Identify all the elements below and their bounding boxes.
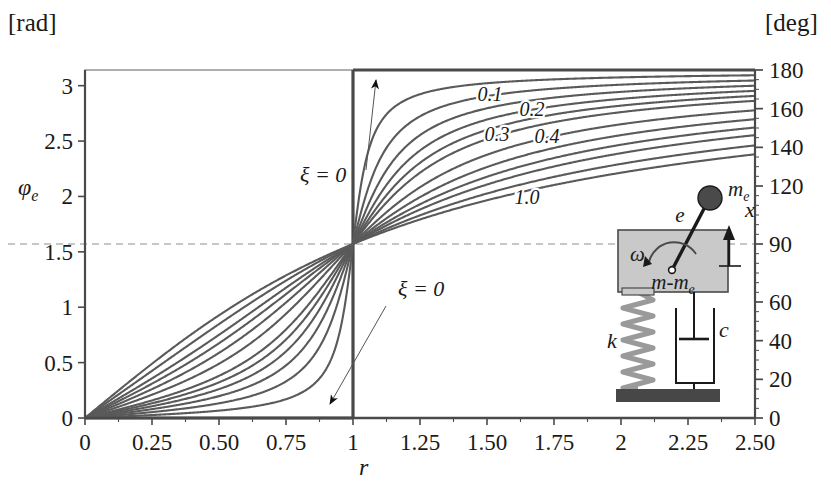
y-tick-right-label: 20 [769, 367, 792, 392]
y-tick-label: 3 [62, 74, 74, 99]
y-tick-right-label: 60 [769, 290, 792, 315]
y-tick-label: 2 [62, 184, 74, 209]
annotation-leader [330, 306, 386, 404]
label-sub: e [689, 282, 695, 297]
x-tick-label: 1.75 [534, 430, 574, 455]
curve-label-0.2: 0.2 [520, 98, 545, 120]
curve-label-text: 1.0 [515, 186, 540, 208]
annotation-leader [366, 80, 376, 170]
y-tick-label: 2.5 [44, 129, 73, 154]
x-tick-label: 2 [615, 430, 627, 455]
label-eccentricity: e [675, 203, 684, 227]
x-axis-name: r [359, 454, 369, 480]
spring [623, 292, 653, 388]
y-tick-right-label: 160 [769, 97, 804, 122]
y-tick-right-label: 0 [769, 406, 781, 431]
curve-label-0.4: 0.4 [535, 125, 560, 147]
y-tick-right-label: 140 [769, 135, 804, 160]
x-tick-label: 1.25 [400, 430, 440, 455]
curve-label-1.0: 1.0 [515, 186, 540, 208]
label-body-mass: m-me [651, 270, 695, 297]
x-tick-label: 1 [347, 430, 359, 455]
curve-label-text: 0.2 [520, 98, 545, 120]
x-tick-label: 0.75 [266, 430, 306, 455]
curve-label-0.1: 0.1 [478, 83, 503, 105]
label-angular-velocity: ω [630, 242, 645, 266]
curve-label-text: 0.1 [478, 83, 503, 105]
y-tick-right-label: 180 [769, 58, 804, 83]
y-tick-label: 1.5 [44, 240, 73, 265]
chart-svg: 0.10.20.30.41.000.250.500.7511.251.501.7… [0, 0, 831, 500]
y-axis-name-sub: e [31, 187, 38, 204]
y-axis-unit-right: [deg] [765, 9, 818, 36]
eccentric-mass [698, 186, 722, 210]
y-tick-label: 0.5 [44, 351, 73, 376]
y-tick-right-label: 90 [769, 232, 792, 257]
y-tick-right-label: 40 [769, 329, 792, 354]
y-tick-right-label: 120 [769, 174, 804, 199]
y-tick-label: 1 [62, 295, 74, 320]
y-tick-label: 0 [62, 406, 74, 431]
x-tick-label: 0.25 [132, 430, 172, 455]
label-stiffness: k [607, 328, 618, 353]
y-axis-left: 00.511.522.53[rad] [8, 9, 85, 431]
x-axis: 00.250.500.7511.251.501.7522.252.50r [79, 418, 775, 480]
x-tick-label: 0.50 [199, 430, 239, 455]
label-damping: c [719, 317, 729, 342]
y-axis-name: φe [18, 174, 38, 204]
y-axis-right: 020406090120140160180[deg] [755, 9, 818, 431]
phase-angle-chart: 0.10.20.30.41.000.250.500.7511.251.501.7… [0, 0, 831, 500]
x-tick-label: 1.50 [467, 430, 507, 455]
label-displacement: x [744, 197, 755, 222]
curve-label-text: 0.4 [535, 125, 560, 147]
x-tick-label: 2.25 [668, 430, 708, 455]
x-tick-label: 0 [79, 430, 91, 455]
y-axis-name-text: φe [18, 174, 38, 204]
curve-label-0.3: 0.3 [485, 123, 510, 145]
annotation-label: ξ = 0 [398, 276, 444, 301]
ground-base [616, 389, 720, 402]
x-tick-label: 2.50 [735, 430, 775, 455]
annotation-label: ξ = 0 [300, 162, 346, 187]
curve-label-text: 0.3 [485, 123, 510, 145]
spring-top-cap [622, 288, 654, 295]
y-axis-unit-left: [rad] [8, 9, 57, 36]
